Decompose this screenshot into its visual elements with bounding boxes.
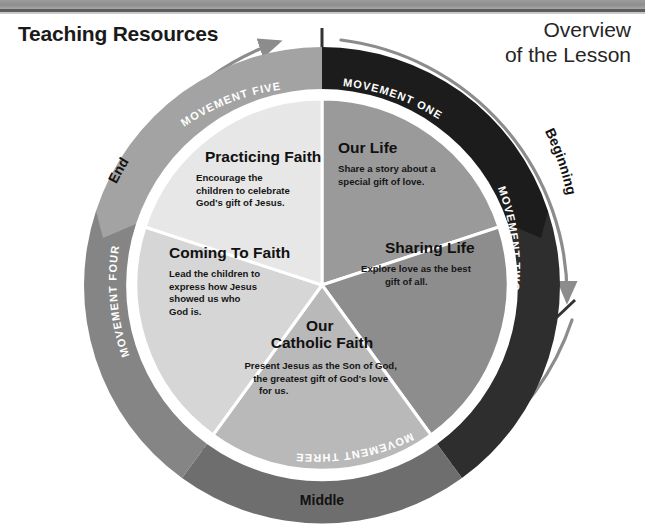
segment-title-coming-to-faith: Coming To Faith — [169, 244, 290, 261]
segment-title-our-life: Our Life — [338, 139, 398, 156]
segment-body-our-life: Share a story about a special gift of lo… — [338, 163, 438, 187]
segment-title-sharing-life: Sharing Life — [385, 239, 475, 256]
phase-label-middle: Middle — [300, 492, 345, 508]
phase-label-beginning: Beginning — [542, 125, 580, 196]
page-canvas: Teaching Resources Overview of the Lesso… — [0, 0, 645, 525]
lesson-overview-wheel: Our Life Share a story about a special g… — [0, 0, 645, 525]
segment-title-practicing-faith: Practicing Faith — [205, 148, 321, 165]
wheel-svg: Our Life Share a story about a special g… — [0, 0, 645, 525]
